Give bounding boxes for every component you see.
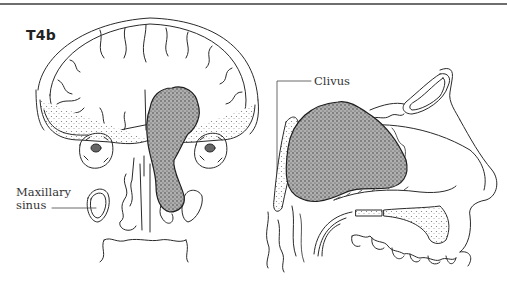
palate [100, 239, 188, 262]
skull-base-left [40, 100, 150, 144]
maxillary-sinus-right [182, 190, 202, 222]
tumor-coronal [147, 87, 200, 212]
sagittal-view [267, 68, 497, 272]
pharynx [314, 212, 352, 256]
nose-outline [460, 120, 497, 252]
anatomy-illustration [0, 0, 507, 282]
skull-outline [38, 18, 258, 100]
coronal-view [36, 18, 259, 262]
cervical-spine [267, 206, 296, 272]
hard-palate [356, 210, 382, 216]
